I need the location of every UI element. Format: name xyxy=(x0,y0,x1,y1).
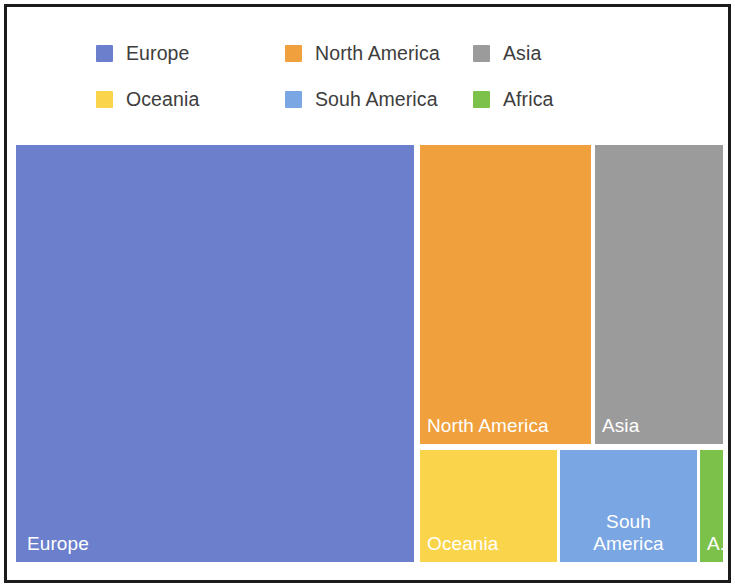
legend-item-africa[interactable]: Africa xyxy=(473,86,553,112)
treemap-tile-label-asia: Asia xyxy=(602,415,639,437)
legend-swatch-oceania-icon xyxy=(96,91,113,108)
chart-legend: Europe North America Asia Oceania Souh A… xyxy=(96,36,616,124)
treemap-tile-africa[interactable]: A... xyxy=(700,450,723,562)
legend-label-africa: Africa xyxy=(503,88,553,111)
treemap-tile-label-south-america: Souh America xyxy=(560,511,697,555)
legend-label-oceania: Oceania xyxy=(126,88,199,111)
treemap-tile-europe[interactable]: Europe xyxy=(16,145,414,562)
treemap-plot-area: Europe North America Asia Oceania Souh A… xyxy=(16,145,723,562)
legend-row-2: Oceania Souh America Africa xyxy=(96,86,616,120)
legend-item-south-america[interactable]: Souh America xyxy=(285,86,438,112)
legend-swatch-europe-icon xyxy=(96,45,113,62)
treemap-tile-label-oceania: Oceania xyxy=(427,533,498,555)
legend-item-north-america[interactable]: North America xyxy=(285,40,440,66)
treemap-tile-asia[interactable]: Asia xyxy=(595,145,723,444)
legend-swatch-africa-icon xyxy=(473,91,490,108)
legend-swatch-asia-icon xyxy=(473,45,490,62)
treemap-figure: Europe North America Asia Oceania Souh A… xyxy=(0,0,735,587)
legend-item-asia[interactable]: Asia xyxy=(473,40,541,66)
treemap-tile-label-africa: A... xyxy=(707,533,723,555)
treemap-tile-label-europe: Europe xyxy=(27,533,89,555)
legend-row-1: Europe North America Asia xyxy=(96,40,616,74)
legend-label-europe: Europe xyxy=(126,42,189,65)
treemap-tile-label-north-america: North America xyxy=(427,415,549,437)
treemap-tile-north-america[interactable]: North America xyxy=(420,145,591,444)
legend-swatch-south-america-icon xyxy=(285,91,302,108)
legend-label-asia: Asia xyxy=(503,42,541,65)
treemap-tile-oceania[interactable]: Oceania xyxy=(420,450,557,562)
legend-item-europe[interactable]: Europe xyxy=(96,40,189,66)
legend-label-north-america: North America xyxy=(315,42,440,65)
legend-label-south-america: Souh America xyxy=(315,88,438,111)
legend-swatch-north-america-icon xyxy=(285,45,302,62)
legend-item-oceania[interactable]: Oceania xyxy=(96,86,199,112)
treemap-tile-south-america[interactable]: Souh America xyxy=(560,450,697,562)
